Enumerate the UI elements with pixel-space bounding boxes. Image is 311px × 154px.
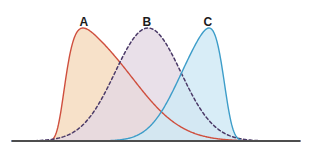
curve-label-a: A — [72, 16, 96, 28]
curve-label-b: B — [135, 16, 159, 28]
distribution-chart: A B C — [0, 0, 311, 154]
curve-areas — [12, 28, 300, 141]
curve-label-c: C — [196, 16, 220, 28]
